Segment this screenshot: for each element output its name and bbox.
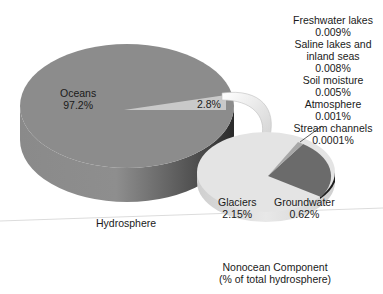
- hydrosphere-title: Hydrosphere: [96, 217, 156, 229]
- oceans-label: Oceans 97.2%: [60, 87, 96, 111]
- minor-components-list: Freshwater lakes 0.009% Saline lakes and…: [288, 14, 378, 146]
- glaciers-label: Glaciers 2.15%: [218, 196, 257, 220]
- nonocean-percent-label: 2.8%: [197, 98, 221, 110]
- nonocean-title: Nonocean Component (% of total hydrosphe…: [219, 261, 331, 285]
- groundwater-label: Groundwater 0.62%: [274, 196, 335, 220]
